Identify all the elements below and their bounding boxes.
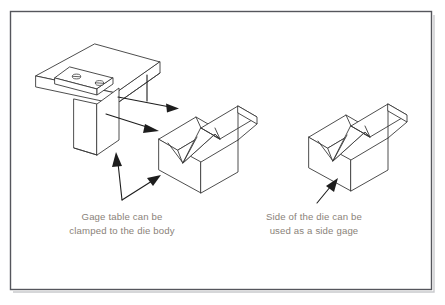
assembly-arrow-upper-line (118, 97, 170, 107)
gage-table-leg-front (74, 99, 97, 155)
leader-right-line (317, 186, 331, 203)
left-caption-leaders (112, 152, 161, 200)
caption-left: Gage table can be clamped to the die bod… (69, 211, 174, 236)
assembly-arrow-upper-head (166, 104, 179, 113)
leader-to-leg-line (118, 163, 122, 200)
assembly-arrow-lower-head (143, 124, 159, 133)
caption-right: Side of the die can be used as a side ga… (266, 211, 362, 236)
gage-table-part (36, 44, 160, 155)
figure-container: Gage table can be clamped to the die bod… (0, 0, 445, 305)
die-block-right (309, 104, 407, 191)
die-right-side-face (351, 138, 388, 191)
leader-to-die-head (147, 175, 161, 186)
diagram-canvas: Gage table can be clamped to the die bod… (0, 0, 445, 305)
right-caption-leader (317, 178, 338, 203)
die-left-side-face (201, 140, 238, 193)
leader-to-die-line (122, 181, 152, 200)
die-block-left (159, 106, 257, 193)
slotted-screw-slot (73, 76, 81, 77)
caption-left-line1: Gage table can be (82, 211, 163, 222)
caption-right-line1: Side of the die can be (266, 211, 362, 222)
caption-left-line2: clamped to the die body (69, 225, 174, 236)
leader-to-leg-head (112, 152, 122, 167)
caption-right-line2: used as a side gage (270, 225, 359, 236)
slotted-screw-slot (96, 83, 104, 84)
